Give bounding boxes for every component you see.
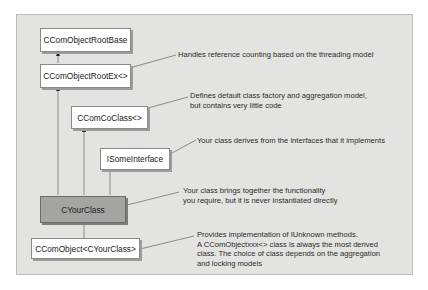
class-label: CYourClass bbox=[61, 205, 105, 215]
annotation-line: and locking models bbox=[197, 259, 380, 269]
class-label: CComCoClass<> bbox=[77, 113, 142, 123]
class-box-ccomobject: CComObject<CYourClass> bbox=[31, 238, 140, 259]
annotation-line: Defines default class factory and aggreg… bbox=[190, 91, 367, 101]
class-label: ISomeInterface bbox=[107, 154, 163, 164]
annotation-co-class: Defines default class factory and aggreg… bbox=[190, 91, 367, 110]
annotation-line: class. The choice of class depends on th… bbox=[197, 249, 380, 259]
class-label: CComObjectRootEx<> bbox=[43, 71, 127, 81]
annotation-root-ex: Handles reference counting based on the … bbox=[178, 50, 373, 60]
annotation-line: A CComObjectxxx<> class is always the mo… bbox=[197, 240, 380, 250]
annotation-some-interface: Your class derives from the interfaces t… bbox=[197, 136, 385, 146]
annotation-line: you require, but it is never instantiate… bbox=[183, 196, 338, 206]
annotation-com-object: Provides implementation of IUnknown meth… bbox=[197, 230, 380, 268]
class-box-cyourclass: CYourClass bbox=[40, 196, 126, 223]
class-box-isomeinterface: ISomeInterface bbox=[100, 148, 170, 170]
class-label: CComObjectRootBase bbox=[44, 35, 128, 45]
class-box-ccomcoclass: CComCoClass<> bbox=[71, 106, 148, 129]
annotation-line: Handles reference counting based on the … bbox=[178, 50, 373, 60]
class-box-ccomobjectrootbase: CComObjectRootBase bbox=[40, 28, 131, 52]
class-box-ccomobjectrootex: CComObjectRootEx<> bbox=[40, 64, 131, 88]
annotation-line: but contains very little code bbox=[190, 101, 367, 111]
annotation-line: Your class derives from the interfaces t… bbox=[197, 136, 385, 146]
annotation-your-class: Your class brings together the functiona… bbox=[183, 186, 338, 205]
annotation-line: Your class brings together the functiona… bbox=[183, 186, 338, 196]
annotation-line: Provides implementation of IUnknown meth… bbox=[197, 230, 380, 240]
class-label: CComObject<CYourClass> bbox=[35, 244, 136, 254]
